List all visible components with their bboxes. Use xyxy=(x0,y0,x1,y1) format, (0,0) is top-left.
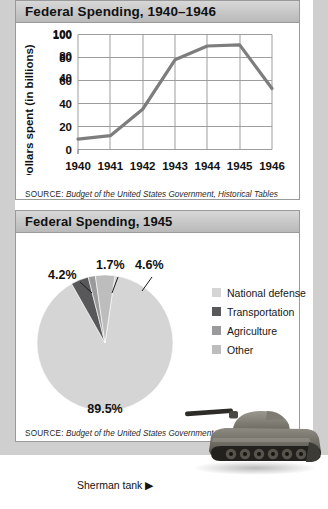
x-tick-1941: 1941 xyxy=(98,160,124,172)
tank-caption: Sherman tank ▶ xyxy=(77,479,153,491)
page-root: Federal Spending, 1940–1946 Dollars spen… xyxy=(0,0,328,509)
pie-chart-title: Federal Spending, 1945 xyxy=(16,211,299,233)
svg-text:60: 60 xyxy=(59,75,72,87)
x-tick-1945: 1945 xyxy=(227,160,253,172)
x-tick-1942: 1942 xyxy=(130,160,156,172)
x-axis-ticklabels: 1940194119421943194419451946 xyxy=(65,160,285,172)
page-frame-left xyxy=(0,0,15,455)
line-chart-panel: Federal Spending, 1940–1946 Dollars spen… xyxy=(15,0,300,200)
line-chart-source: SOURCE: Budget of the United States Gove… xyxy=(25,189,293,200)
svg-text:20: 20 xyxy=(59,121,72,133)
legend-label-national-defense: National defense xyxy=(227,287,306,299)
pie-legend: National defense Transportation Agricult… xyxy=(212,283,306,359)
line-chart-title: Federal Spending, 1940–1946 xyxy=(16,1,299,23)
svg-text:80: 80 xyxy=(59,52,72,64)
legend-swatch-transportation xyxy=(212,307,221,316)
svg-text:100: 100 xyxy=(53,29,72,41)
legend-swatch-agriculture xyxy=(212,326,221,335)
svg-text:40: 40 xyxy=(59,98,72,110)
source-label: SOURCE: xyxy=(25,190,64,199)
source-text: Budget of the United States Government, … xyxy=(66,190,278,199)
pie-label-other: 4.6% xyxy=(135,258,164,272)
pie-label-national-defense: 89.5% xyxy=(87,402,122,416)
svg-text:0: 0 xyxy=(66,144,72,156)
y-axis-title: Dollars spent (in billions) xyxy=(23,44,35,175)
legend-label-transportation: Transportation xyxy=(227,306,294,318)
x-tick-1944: 1944 xyxy=(195,160,221,172)
legend-label-agriculture: Agriculture xyxy=(227,325,277,337)
legend-swatch-national-defense xyxy=(212,288,221,297)
source-label: SOURCE: xyxy=(25,429,64,438)
legend-item: Agriculture xyxy=(212,321,306,340)
line-chart-plot: Dollars spent (in billions) 100 80 40 10… xyxy=(16,23,297,175)
x-tick-1940: 1940 xyxy=(65,160,91,172)
x-tick-1946: 1946 xyxy=(259,160,285,172)
x-tick-1943: 1943 xyxy=(162,160,188,172)
page-frame-right xyxy=(313,0,328,455)
pie-slices xyxy=(37,275,173,411)
legend-label-other: Other xyxy=(227,344,253,356)
pie-label-agriculture: 1.7% xyxy=(96,258,125,272)
pie-label-transportation: 4.2% xyxy=(48,268,77,282)
legend-item: Transportation xyxy=(212,302,306,321)
legend-item: National defense xyxy=(212,283,306,302)
sherman-tank-photo xyxy=(183,398,328,476)
legend-swatch-other xyxy=(212,345,221,354)
legend-item: Other xyxy=(212,340,306,359)
